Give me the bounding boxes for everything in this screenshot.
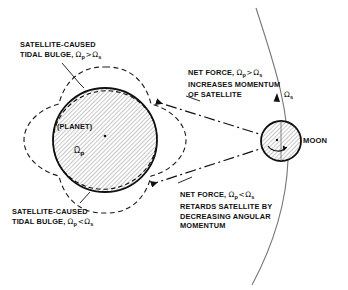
label-net-force-top-line3: OF SATELLITE [188, 90, 280, 100]
net-force-vector-top [157, 102, 272, 138]
label-net-force-bottom-line3: DECREASING ANGULAR [180, 212, 272, 222]
leader-line-bulge-top [62, 63, 84, 88]
label-net-force-top-line1: NET FORCE, Ωp>Ωs [188, 68, 280, 80]
label-tidal-bulge-bottom-line2: TIDAL BULGE, Ωp<Ωs [12, 217, 94, 229]
label-net-force-bottom-line1: NET FORCE, Ωp<Ωs [180, 190, 272, 202]
leader-line-force-bottom [178, 177, 192, 183]
planet-body [53, 88, 157, 192]
label-tidal-bulge-top-line1: SATELLITE-CAUSED [20, 40, 102, 50]
label-tidal-bulge-bottom: SATELLITE-CAUSED TIDAL BULGE, Ωp<Ωs [12, 207, 94, 229]
label-planet-rotation-rate: Ωp [74, 146, 84, 158]
tidal-interaction-diagram: SATELLITE-CAUSED TIDAL BULGE, Ωp>Ωs SATE… [0, 0, 348, 290]
label-tidal-bulge-bottom-line1: SATELLITE-CAUSED [12, 207, 94, 217]
moon-center-dot [276, 139, 278, 141]
label-tidal-bulge-top-line2: TIDAL BULGE, Ωp>Ωs [20, 50, 102, 62]
label-tidal-bulge-top: SATELLITE-CAUSED TIDAL BULGE, Ωp>Ωs [20, 40, 102, 62]
label-planet: (PLANET) [57, 122, 92, 132]
label-net-force-bottom-line4: MOMENTUM [180, 221, 272, 231]
label-net-force-bottom: NET FORCE, Ωp<Ωs RETARDS SATELLITE BY DE… [180, 190, 272, 231]
label-net-force-top-line2: INCREASES MOMENTUM [188, 80, 280, 90]
net-force-vector-bottom [152, 145, 272, 184]
label-net-force-bottom-line2: RETARDS SATELLITE BY [180, 202, 272, 212]
planet-center-dot [104, 135, 107, 138]
label-orbit-rate: Ωs [284, 90, 293, 102]
label-net-force-top: NET FORCE, Ωp>Ωs INCREASES MOMENTUM OF S… [188, 68, 280, 99]
leader-line-bulge-bottom [80, 192, 90, 203]
label-moon: MOON [303, 136, 327, 146]
